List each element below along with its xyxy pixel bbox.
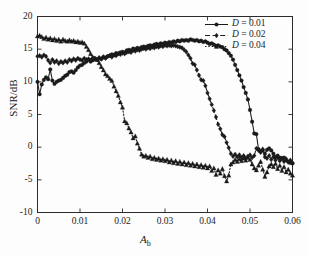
legend-value: = 0.04 (239, 40, 266, 50)
legend-variable: D (232, 29, 239, 39)
x-tick-label: 0.06 (275, 216, 310, 226)
y-tick-label: 5 (7, 109, 33, 119)
y-tick-label: 15 (7, 43, 33, 53)
legend-variable: D (232, 40, 239, 50)
data-series-group (35, 33, 294, 183)
legend-value: = 0.01 (239, 18, 266, 28)
y-tick-label: 0 (7, 141, 33, 151)
x-axis-label-main: A (140, 233, 147, 245)
chart-figure: SNR/dB Ab 00.010.020.030.040.050.06 2015… (0, 0, 309, 256)
x-tick-label: 0.04 (190, 216, 226, 226)
x-tick-label: 0 (20, 216, 56, 226)
x-tick-label: 0.05 (232, 216, 268, 226)
legend-value: = 0.02 (239, 29, 266, 39)
x-tick-label: 0.03 (147, 216, 183, 226)
legend-item-1: D = 0.01 (232, 18, 266, 28)
x-tick-label: 0.02 (105, 216, 141, 226)
y-tick-label: -5 (7, 174, 33, 184)
x-axis-label: Ab (140, 233, 151, 248)
y-tick-label: -10 (7, 207, 33, 217)
y-axis-label: SNR/dB (7, 63, 19, 133)
y-tick-label: 20 (7, 11, 33, 21)
legend-item-2: D = 0.02 (232, 29, 266, 39)
y-tick-label: 10 (7, 76, 33, 86)
legend-variable: D (232, 18, 239, 28)
legend-item-3: D = 0.04 (232, 40, 266, 50)
x-tick-label: 0.01 (62, 216, 98, 226)
x-axis-label-sub: b (147, 239, 151, 248)
